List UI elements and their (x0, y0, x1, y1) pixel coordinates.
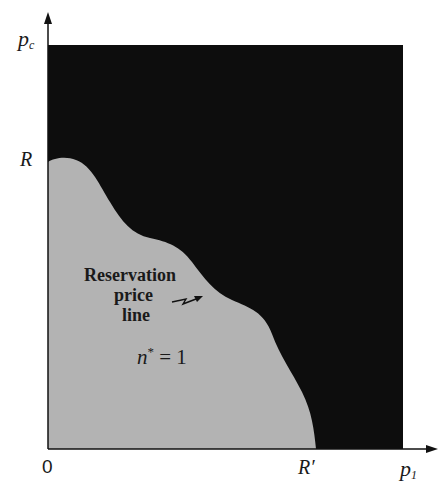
annotation-line-1: Reservation (82, 265, 212, 285)
x-axis-label: p1 (400, 456, 417, 482)
y-axis-label: pc (18, 26, 34, 52)
x-axis-arrow-icon (426, 445, 438, 453)
annotation-line-3: line (82, 305, 212, 325)
y-axis-arrow-icon (44, 12, 52, 24)
reservation-price-diagram: pc R 0 R′ p1 Reservation price line n* =… (0, 0, 442, 498)
diagram-canvas (0, 0, 442, 498)
y-tick-label-R: R (20, 148, 32, 171)
origin-label: 0 (42, 456, 53, 478)
region-label-n-star: n* = 1 (137, 344, 187, 370)
x-tick-label-R-prime: R′ (298, 456, 315, 479)
reservation-price-annotation: Reservation price line (82, 265, 212, 325)
annotation-line-2: price (82, 285, 212, 305)
